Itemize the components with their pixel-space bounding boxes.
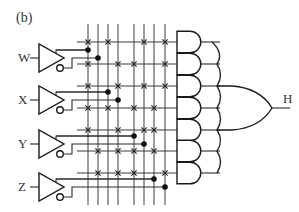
junction-dot-icon xyxy=(95,55,101,61)
and-gate-icon xyxy=(177,140,201,162)
and-gate-icon xyxy=(177,31,201,53)
logic-circuit-diagram: (b) WXYZ H xyxy=(0,0,299,212)
figure-label: (b) xyxy=(16,10,33,26)
input-label: Y xyxy=(18,136,28,151)
or-gate xyxy=(212,42,290,173)
and-gate-icon xyxy=(177,162,201,184)
and-gate-array xyxy=(177,31,220,184)
input-label: X xyxy=(18,92,28,107)
inverter-bubble-icon xyxy=(57,107,64,114)
and-gate-icon xyxy=(177,119,201,141)
input-label: Z xyxy=(18,179,26,194)
junction-dot-icon xyxy=(85,47,91,53)
junction-dot-icon xyxy=(162,184,168,190)
junction-dot-icon xyxy=(131,133,137,139)
output-label-h: H xyxy=(283,91,292,106)
input-buffer-y: Y xyxy=(18,130,147,158)
input-label: W xyxy=(18,50,31,65)
junction-dot-icon xyxy=(105,89,111,95)
inverter-bubble-icon xyxy=(57,65,64,72)
or-gate-icon xyxy=(217,86,272,130)
and-gate-icon xyxy=(177,53,201,75)
input-buffer-z: Z xyxy=(18,173,168,201)
and-gate-icon xyxy=(177,75,201,97)
junction-dot-icon xyxy=(115,97,121,103)
crosspoint-grid xyxy=(77,24,177,205)
and-gate-icon xyxy=(177,97,201,119)
input-buffers: WXYZ xyxy=(18,44,168,201)
junction-dot-icon xyxy=(141,141,147,147)
inverter-bubble-icon xyxy=(57,194,64,201)
input-buffer-x: X xyxy=(18,86,121,114)
inverter-bubble-icon xyxy=(57,151,64,158)
junction-dot-icon xyxy=(151,176,157,182)
